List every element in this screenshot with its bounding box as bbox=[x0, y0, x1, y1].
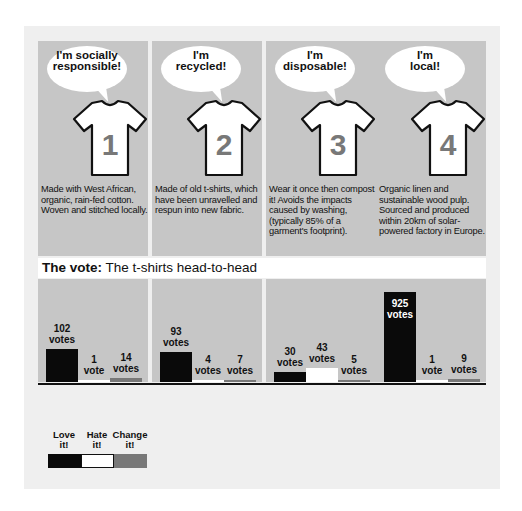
tshirt-panel-1: I'm sociallyresponsible!1Made with West … bbox=[38, 41, 148, 256]
vote-chart: 102votes1vote14votes93votes4votes7votes3… bbox=[38, 279, 486, 384]
tshirt-description: Organic linen and sustainable wood pulp.… bbox=[379, 184, 487, 237]
legend-label: Changeit! bbox=[110, 430, 150, 449]
tshirt-number: 3 bbox=[330, 128, 347, 161]
bar-label: 93votes bbox=[156, 326, 196, 348]
bubble-text: I'mrecycled! bbox=[161, 50, 241, 72]
bar-label: 102votes bbox=[42, 323, 82, 345]
tshirt-icon: 4 bbox=[408, 97, 488, 177]
tshirt-number: 2 bbox=[216, 128, 233, 161]
tshirt-panels: I'm sociallyresponsible!1Made with West … bbox=[38, 41, 486, 256]
bar-hate-1 bbox=[78, 380, 110, 382]
legend-swatch bbox=[48, 454, 81, 468]
tshirt-number: 1 bbox=[102, 128, 119, 161]
bar-love-3 bbox=[274, 372, 306, 382]
bar-hate-2 bbox=[192, 380, 224, 382]
bar-label: 14votes bbox=[106, 352, 146, 374]
bar-hate-4 bbox=[416, 380, 448, 382]
bar-label: 5votes bbox=[334, 354, 374, 376]
tshirt-number: 4 bbox=[440, 128, 457, 161]
chart-baseline bbox=[38, 383, 486, 385]
bubble-text: I'mdisposable! bbox=[275, 50, 355, 72]
bar-change-2 bbox=[224, 380, 256, 382]
tshirt-description: Made with West African, organic, rain-fe… bbox=[41, 184, 149, 216]
tshirt-icon: 2 bbox=[184, 97, 264, 177]
tshirt-panel-3: I'mdisposable!3Wear it once then compost… bbox=[266, 41, 376, 256]
tshirt-icon: 3 bbox=[298, 97, 378, 177]
bubble-text: I'm sociallyresponsible! bbox=[47, 50, 127, 72]
tshirt-description: Wear it once then compost it! Avoids the… bbox=[269, 184, 377, 237]
bar-change-3 bbox=[338, 380, 370, 382]
bar-change-1 bbox=[110, 378, 142, 382]
bar-change-4 bbox=[448, 379, 480, 382]
bar-label: 925votes bbox=[380, 298, 420, 320]
bubble-text: I'mlocal! bbox=[385, 50, 465, 72]
tshirt-panel-4: I'mlocal!4Organic linen and sustainable … bbox=[376, 41, 486, 256]
tshirt-panel-2: I'mrecycled!2Made of old t-shirts, which… bbox=[152, 41, 262, 256]
legend-swatch bbox=[81, 454, 114, 468]
vote-title: The vote: The t-shirts head-to-head bbox=[38, 258, 486, 278]
tshirt-icon: 1 bbox=[70, 97, 150, 177]
tshirt-description: Made of old t-shirts, which have been un… bbox=[155, 184, 263, 216]
legend-swatch bbox=[114, 454, 147, 468]
vote-title-bold: The vote: bbox=[38, 260, 102, 275]
vote-title-rest: The t-shirts head-to-head bbox=[102, 260, 257, 275]
bar-label: 9votes bbox=[444, 353, 484, 375]
bar-label: 7votes bbox=[220, 354, 260, 376]
